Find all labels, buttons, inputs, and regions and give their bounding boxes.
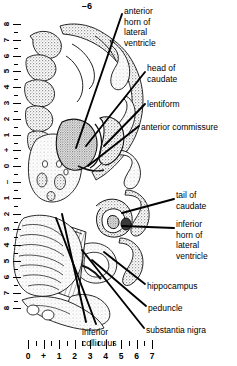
vertical-tick-label: 8	[3, 19, 11, 30]
vertical-tick-label: 5	[3, 256, 11, 267]
leader-hippocampus	[104, 252, 145, 284]
vertical-tick-minor	[14, 158, 18, 159]
horizontal-tick-minor	[98, 341, 99, 346]
horizontal-tick-minor	[67, 341, 68, 346]
leader-inferior-horn	[122, 226, 174, 228]
leader-tail-of-caudate	[122, 199, 174, 213]
horizontal-tick-major	[44, 340, 45, 349]
label-lentiform: lentiform	[147, 99, 180, 110]
vertical-tick-minor	[14, 79, 18, 80]
label-anterior-commissure: anterior commissure	[141, 122, 218, 133]
vertical-tick-label: 1	[3, 192, 11, 203]
label-tail-of-caudate: tail of caudate	[176, 190, 206, 211]
leader-anterior-commissure	[88, 126, 139, 166]
vertical-tick-minor	[14, 269, 18, 270]
vertical-tick-label: 7	[3, 287, 11, 298]
vertical-tick-major	[13, 229, 21, 230]
horizontal-tick-label: +	[38, 351, 50, 361]
vertical-tick-minor	[14, 64, 18, 65]
horizontal-tick-major	[137, 340, 138, 349]
vertical-tick-minor	[14, 127, 18, 128]
vertical-tick-label: 5	[3, 66, 11, 77]
horizontal-tick-minor	[51, 341, 52, 346]
vertical-tick-label: 1	[3, 129, 11, 140]
leader-substantia-nigra	[82, 250, 144, 328]
label-substantia-nigra: substantia nigra	[146, 325, 206, 336]
vertical-tick-major	[13, 198, 21, 199]
vertical-tick-minor	[14, 48, 18, 49]
horizontal-tick-major	[106, 340, 107, 349]
vertical-tick-major	[13, 135, 21, 136]
leader-brainstem-secondary	[62, 214, 86, 322]
horizontal-tick-minor	[144, 341, 145, 346]
vertical-tick-label: –	[3, 177, 11, 188]
vertical-tick-major	[13, 182, 21, 183]
horizontal-tick-label: 0	[22, 351, 34, 361]
vertical-tick-major	[13, 166, 21, 167]
vertical-tick-major	[13, 261, 21, 262]
vertical-tick-minor	[14, 237, 18, 238]
vertical-tick-label: 4	[3, 240, 11, 251]
horizontal-tick-label: 7	[146, 351, 158, 361]
vertical-tick-minor	[14, 174, 18, 175]
vertical-tick-major	[13, 245, 21, 246]
vertical-tick-major	[13, 24, 21, 25]
vertical-tick-major	[13, 87, 21, 88]
horizontal-tick-major	[28, 340, 29, 349]
vertical-tick-minor	[14, 111, 18, 112]
vertical-tick-minor	[14, 206, 18, 207]
vertical-tick-minor	[14, 285, 18, 286]
vertical-tick-minor	[14, 143, 18, 144]
vertical-tick-major	[13, 71, 21, 72]
horizontal-tick-major	[152, 340, 153, 349]
vertical-tick-major	[13, 103, 21, 104]
horizontal-tick-minor	[82, 341, 83, 346]
vertical-tick-label: 2	[3, 208, 11, 219]
atlas-plate: –6	[0, 0, 237, 366]
vertical-tick-label: 6	[3, 271, 11, 282]
label-peduncle: peduncle	[148, 303, 183, 314]
vertical-tick-major	[13, 293, 21, 294]
vertical-tick-label: 6	[3, 50, 11, 61]
vertical-tick-label: 7	[3, 34, 11, 45]
vertical-tick-major	[13, 150, 21, 151]
leader-peduncle	[92, 260, 146, 306]
leader-lentiform	[104, 104, 145, 146]
vertical-scale: 87654321+0–12345678	[0, 24, 22, 326]
label-inferior-horn-of-lateral-ventricle: inferior horn of lateral ventricle	[176, 219, 208, 261]
vertical-tick-major	[13, 119, 21, 120]
vertical-tick-major	[13, 40, 21, 41]
horizontal-tick-major	[90, 340, 91, 349]
vertical-tick-label: 8	[3, 303, 11, 314]
horizontal-tick-major	[75, 340, 76, 349]
horizontal-tick-minor	[36, 341, 37, 346]
vertical-tick-label: 4	[3, 82, 11, 93]
horizontal-tick-minor	[113, 341, 114, 346]
horizontal-tick-label: 1	[53, 351, 65, 361]
leader-anterior-horn	[76, 14, 122, 148]
leader-inferior-colliculus	[56, 218, 96, 324]
vertical-tick-major	[13, 56, 21, 57]
vertical-tick-minor	[14, 222, 18, 223]
horizontal-tick-major	[121, 340, 122, 349]
vertical-tick-major	[13, 308, 21, 309]
horizontal-ruler: 0+1234567	[28, 340, 158, 364]
vertical-tick-minor	[14, 95, 18, 96]
label-head-of-caudate: head of caudate	[147, 63, 177, 84]
horizontal-tick-label: 6	[131, 351, 143, 361]
horizontal-tick-label: 3	[84, 351, 96, 361]
vertical-tick-minor	[14, 253, 18, 254]
vertical-tick-label: 3	[3, 98, 11, 109]
horizontal-tick-major	[59, 340, 60, 349]
vertical-tick-minor	[14, 32, 18, 33]
label-anterior-horn-of-lateral-ventricle: anterior horn of lateral ventricle	[124, 6, 156, 48]
vertical-tick-label: 2	[3, 113, 11, 124]
horizontal-tick-label: 4	[100, 351, 112, 361]
vertical-tick-minor	[14, 301, 18, 302]
horizontal-tick-minor	[129, 341, 130, 346]
vertical-tick-label: 0	[3, 161, 11, 172]
horizontal-tick-label: 2	[69, 351, 81, 361]
vertical-tick-minor	[14, 190, 18, 191]
label-hippocampus: hippocampus	[147, 281, 198, 292]
horizontal-tick-label: 5	[115, 351, 127, 361]
